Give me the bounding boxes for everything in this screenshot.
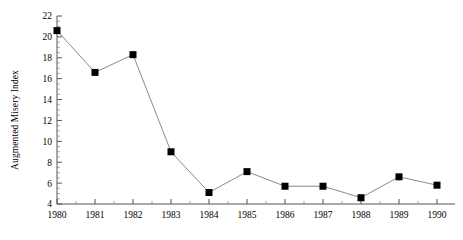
y-tick-label: 8 xyxy=(47,158,52,168)
chart-page: Augmented Misery Index 22201816141210864… xyxy=(0,0,463,240)
y-tick-label: 22 xyxy=(43,11,53,21)
y-tick-label: 20 xyxy=(43,32,53,42)
data-point-markers xyxy=(54,27,441,201)
x-tick-label: 1981 xyxy=(86,210,105,220)
y-axis-tick-labels: 22201816141210864 xyxy=(43,11,53,209)
x-tick-label: 1985 xyxy=(238,210,257,220)
data-point-marker xyxy=(168,148,175,155)
line-chart-plot: 22201816141210864 1980198119821983198419… xyxy=(0,0,463,240)
y-tick-label: 6 xyxy=(47,179,52,189)
data-point-marker xyxy=(54,27,61,34)
x-tick-label: 1983 xyxy=(162,210,181,220)
y-tick-label: 18 xyxy=(43,53,53,63)
data-point-marker xyxy=(396,173,403,180)
x-tick-label: 1988 xyxy=(352,210,371,220)
data-point-marker xyxy=(320,183,327,190)
data-point-marker xyxy=(206,189,213,196)
y-tick-label: 4 xyxy=(47,199,52,209)
x-tick-label: 1989 xyxy=(390,210,409,220)
y-tick-label: 12 xyxy=(43,116,53,126)
x-tick-label: 1980 xyxy=(48,210,67,220)
data-point-marker xyxy=(130,51,137,58)
data-point-marker xyxy=(92,69,99,76)
x-tick-label: 1982 xyxy=(124,210,143,220)
data-point-marker xyxy=(244,168,251,175)
x-tick-label: 1984 xyxy=(200,210,219,220)
x-axis-tick-labels: 1980198119821983198419851986198719881989… xyxy=(48,210,447,220)
data-point-marker xyxy=(358,194,365,201)
data-point-marker xyxy=(282,183,289,190)
x-tick-label: 1990 xyxy=(428,210,447,220)
y-tick-label: 14 xyxy=(43,95,53,105)
data-point-marker xyxy=(434,182,441,189)
y-tick-label: 16 xyxy=(43,74,53,84)
x-tick-label: 1986 xyxy=(276,210,295,220)
y-tick-label: 10 xyxy=(43,137,53,147)
x-tick-label: 1987 xyxy=(314,210,333,220)
